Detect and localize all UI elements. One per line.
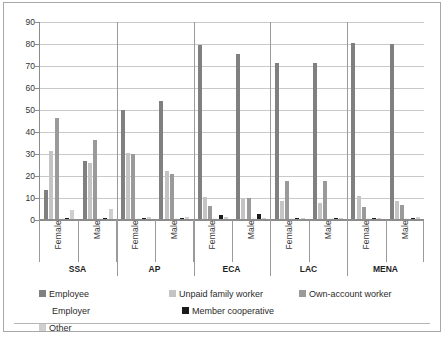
legend-item-employer[interactable]: Employer [39, 302, 182, 319]
x-axis-sex-label: Male [401, 220, 410, 241]
y-axis-tick-mark [35, 88, 39, 89]
bar [318, 203, 322, 220]
bar [405, 218, 409, 219]
bar-group-ap-female [117, 22, 155, 219]
legend-label: Employer [52, 306, 90, 316]
bar [339, 218, 343, 219]
bar [103, 218, 107, 219]
bar [159, 101, 163, 219]
y-axis-tick-mark [35, 176, 39, 177]
x-axis-region-labels: SSAAPECALACMENA [39, 261, 424, 277]
x-axis-cell: Male [309, 220, 348, 262]
region-label-ssa: SSA [39, 261, 116, 277]
bar [93, 140, 97, 219]
bar-group-mena-female [347, 22, 385, 219]
bar [390, 44, 394, 219]
bar [147, 217, 151, 219]
y-axis-tick-label: 60 [4, 84, 35, 93]
bar [203, 197, 207, 219]
bar [185, 217, 189, 219]
y-axis-tick-label: 40 [4, 128, 35, 137]
bar [198, 45, 202, 219]
bar [334, 218, 338, 219]
bar [247, 198, 251, 219]
bar [323, 181, 327, 220]
bar [88, 163, 92, 219]
legend-item-own-account-worker[interactable]: Own-account worker [299, 285, 429, 302]
bar [55, 118, 59, 219]
y-axis-tick-label: 10 [4, 194, 35, 203]
legend-label: Own-account worker [309, 289, 392, 299]
x-axis-cell: Female [193, 220, 232, 262]
bar [109, 209, 113, 219]
bar-group-lac-female [270, 22, 308, 219]
x-axis-cell: Female [270, 220, 309, 262]
x-axis-cell: Male [386, 220, 425, 262]
plot-area [39, 22, 424, 220]
x-axis-sex-label: Female [362, 220, 371, 252]
bar [49, 151, 53, 219]
bar [377, 218, 381, 219]
x-axis-sex-label: Female [285, 220, 294, 252]
chart-legend: EmployeeUnpaid family workerOwn-account … [39, 285, 429, 336]
bar [44, 190, 48, 219]
legend-swatch-icon [182, 307, 189, 314]
x-axis-sex-label: Male [324, 220, 333, 241]
bar [98, 218, 102, 219]
bar [372, 218, 376, 219]
bar [65, 218, 69, 219]
legend-label: Unpaid family worker [179, 289, 263, 299]
legend-swatch-icon [39, 324, 46, 331]
bar-group-ssa-female [40, 22, 78, 219]
bar [411, 218, 415, 219]
bar [262, 218, 266, 219]
bar [170, 174, 174, 219]
bar-group-eca-female [194, 22, 232, 219]
bar [395, 201, 399, 219]
legend-item-unpaid-family-worker[interactable]: Unpaid family worker [169, 285, 299, 302]
legend-swatch-icon [299, 290, 306, 297]
bar [400, 205, 404, 219]
bar [280, 201, 284, 219]
legend-item-member-cooperative[interactable]: Member cooperative [182, 302, 312, 319]
bar-groups [40, 22, 424, 219]
bar [142, 218, 146, 219]
legend-divider [14, 323, 430, 324]
region-label-mena: MENA [347, 261, 424, 277]
y-axis-tick-label: 90 [4, 18, 35, 27]
x-axis-sex-label: Female [208, 220, 217, 252]
x-axis-cell: Female [116, 220, 155, 262]
legend-swatch-icon [169, 290, 176, 297]
bar-group-ssa-male [78, 22, 116, 219]
y-axis-tick-label: 30 [4, 150, 35, 159]
bar [257, 214, 261, 220]
legend-item-employee[interactable]: Employee [39, 285, 169, 302]
y-axis-tick-label: 0 [4, 216, 35, 225]
y-axis-tick-mark [35, 154, 39, 155]
chart-figure: 0102030405060708090 FemaleMaleFemaleMale… [3, 2, 441, 332]
x-axis-sex-label: Female [131, 220, 140, 252]
x-axis-cell: Female [39, 220, 78, 262]
bar [175, 218, 179, 219]
bar [313, 63, 317, 219]
x-axis-cell: Male [78, 220, 117, 262]
bar [301, 218, 305, 219]
x-axis-cell: Male [155, 220, 194, 262]
bar [121, 110, 125, 219]
bar [351, 43, 355, 219]
bar [357, 196, 361, 219]
bar [241, 198, 245, 219]
bar-group-eca-male [232, 22, 270, 219]
x-axis-cell: Female [347, 220, 386, 262]
legend-item-other[interactable]: Other [39, 319, 169, 336]
bar [416, 217, 420, 219]
y-axis-tick-label: 20 [4, 172, 35, 181]
x-axis-sex-label: Male [247, 220, 256, 241]
x-axis-sex-labels: FemaleMaleFemaleMaleFemaleMaleFemaleMale… [39, 220, 424, 262]
legend-label: Member cooperative [192, 306, 274, 316]
bar [70, 210, 74, 219]
bar [126, 153, 130, 219]
legend-swatch-icon [39, 290, 46, 297]
region-label-lac: LAC [270, 261, 347, 277]
bar-group-ap-male [155, 22, 193, 219]
